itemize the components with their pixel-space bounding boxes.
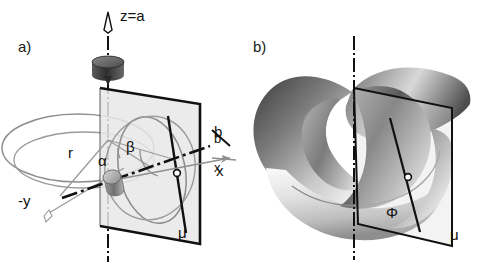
- figure-svg: a) z=a α r β: [0, 0, 478, 269]
- figure-canvas: a) z=a α r β: [0, 0, 478, 269]
- panel-a: a) z=a α r β: [2, 7, 230, 262]
- angle-beta-label: β: [126, 138, 135, 155]
- upper-cylinder-glyph: [92, 56, 124, 86]
- x-axis-label-b: x: [214, 160, 221, 175]
- b-axis-label-b: b: [214, 131, 221, 146]
- panel-b: b) b x: [212, 36, 470, 260]
- radius-r-label: r: [68, 144, 73, 161]
- angle-alpha-label: α: [98, 152, 107, 169]
- z-axis-arrowhead: [104, 12, 112, 33]
- panel-b-label: b): [253, 38, 266, 55]
- center-point-marker-b: [405, 174, 412, 181]
- panel-a-label: a): [18, 38, 31, 55]
- plane-mu-label-b: μ: [450, 226, 459, 243]
- neg-y-axis-label: -y: [18, 192, 31, 209]
- center-point-marker-a: [174, 170, 181, 177]
- plane-mu-label-a: μ: [178, 224, 187, 241]
- surface-phi-label: Φ: [386, 204, 398, 221]
- z-axis-label: z=a: [120, 7, 145, 24]
